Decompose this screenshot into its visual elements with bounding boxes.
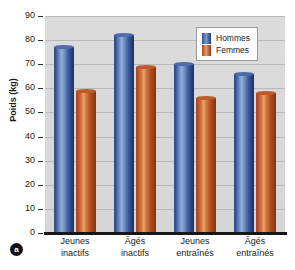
legend-item-femmes: Femmes — [202, 44, 250, 56]
y-tick-mark-90 — [38, 16, 43, 17]
bar-hommes-2 — [174, 64, 194, 233]
bar-body — [114, 35, 134, 233]
y-tick-70: 70 — [0, 64, 45, 65]
bar-body — [234, 74, 254, 233]
x-axis-label-1: Âgésinactifs — [105, 236, 165, 259]
bar-femmes-0 — [76, 91, 96, 233]
x-axis-label-line-1: inactifs — [105, 248, 165, 260]
bar-cap — [76, 89, 96, 93]
y-tick-60: 60 — [0, 88, 45, 89]
legend-item-hommes: Hommes — [202, 32, 250, 44]
x-axis-line — [44, 232, 287, 235]
gridline-90 — [45, 16, 285, 17]
y-tick-label-40: 40 — [0, 131, 35, 141]
x-axis-label-2: Jeunesentraînés — [165, 236, 225, 259]
bar-femmes-1 — [136, 67, 156, 233]
bar-hommes-3 — [234, 74, 254, 233]
x-axis-label-line-1: entraînés — [165, 248, 225, 260]
x-axis-category-labels: JeunesinactifsÂgésinactifsJeunesentraîné… — [45, 236, 285, 270]
weight-bar-chart-figure: Poids (kg) 0102030405060708090 Hommes Fe… — [0, 0, 295, 270]
bar-body — [136, 67, 156, 233]
y-axis-ticks: 0102030405060708090 — [0, 0, 45, 270]
x-axis-label-line-1: inactifs — [45, 248, 105, 260]
x-axis-label-line-0: Âgés — [225, 236, 285, 248]
y-tick-mark-60 — [38, 88, 43, 89]
legend-swatch-femmes-icon — [202, 45, 211, 56]
y-tick-label-50: 50 — [0, 106, 35, 116]
x-axis-label-3: Âgésentraînés — [225, 236, 285, 259]
legend: Hommes Femmes — [196, 27, 258, 61]
legend-label-femmes: Femmes — [216, 45, 249, 55]
y-tick-label-70: 70 — [0, 58, 35, 68]
bar-hommes-0 — [54, 47, 74, 233]
y-tick-90: 90 — [0, 16, 45, 17]
x-axis-label-line-0: Âgés — [105, 236, 165, 248]
y-tick-mark-40 — [38, 137, 43, 138]
y-tick-label-90: 90 — [0, 10, 35, 20]
y-tick-40: 40 — [0, 137, 45, 138]
bar-femmes-3 — [256, 93, 276, 233]
bar-cap — [234, 72, 254, 76]
y-tick-label-80: 80 — [0, 34, 35, 44]
y-tick-50: 50 — [0, 112, 45, 113]
y-tick-20: 20 — [0, 185, 45, 186]
bar-body — [256, 93, 276, 233]
legend-label-hommes: Hommes — [216, 33, 250, 43]
y-tick-mark-80 — [38, 40, 43, 41]
y-tick-mark-30 — [38, 161, 43, 162]
bar-body — [196, 98, 216, 233]
y-tick-label-60: 60 — [0, 82, 35, 92]
y-tick-80: 80 — [0, 40, 45, 41]
x-axis-label-0: Jeunesinactifs — [45, 236, 105, 259]
x-axis-label-line-0: Jeunes — [45, 236, 105, 248]
bar-femmes-2 — [196, 98, 216, 233]
bar-cap — [196, 96, 216, 100]
bar-body — [54, 47, 74, 233]
y-tick-label-30: 30 — [0, 155, 35, 165]
gridline-70 — [45, 64, 285, 65]
panel-badge: a — [10, 243, 23, 256]
y-tick-10: 10 — [0, 209, 45, 210]
y-tick-label-10: 10 — [0, 203, 35, 213]
y-tick-mark-0 — [38, 233, 43, 234]
bar-cap — [136, 65, 156, 69]
bar-hommes-1 — [114, 35, 134, 233]
bar-body — [174, 64, 194, 233]
y-tick-0: 0 — [0, 233, 45, 234]
y-tick-mark-50 — [38, 112, 43, 113]
bar-body — [76, 91, 96, 233]
y-tick-mark-10 — [38, 209, 43, 210]
x-axis-label-line-0: Jeunes — [165, 236, 225, 248]
y-tick-mark-70 — [38, 64, 43, 65]
y-tick-30: 30 — [0, 161, 45, 162]
x-axis-label-line-1: entraînés — [225, 248, 285, 260]
legend-swatch-hommes-icon — [202, 33, 211, 44]
y-tick-mark-20 — [38, 185, 43, 186]
y-tick-label-0: 0 — [0, 227, 35, 237]
y-tick-label-20: 20 — [0, 179, 35, 189]
